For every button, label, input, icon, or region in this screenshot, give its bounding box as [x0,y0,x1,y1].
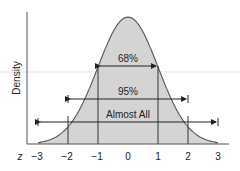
svg-text:2: 2 [185,151,191,162]
svg-text:3: 3 [215,151,221,162]
curve-area [38,17,218,144]
label-68: 68% [118,53,138,64]
normal-distribution-chart: 68% 95% Almost All Density z −3 −2 −1 0 … [0,0,240,171]
svg-text:−1: −1 [91,151,103,162]
label-95: 95% [118,86,138,97]
svg-text:1: 1 [155,151,161,162]
x-tick-labels: −3 −2 −1 0 1 2 3 [31,151,221,162]
label-almost-all: Almost All [106,109,150,120]
x-axis-label: z [17,151,23,162]
svg-text:−3: −3 [31,151,43,162]
y-axis-label: Density [11,61,22,94]
svg-text:0: 0 [125,151,131,162]
svg-text:−2: −2 [61,151,73,162]
